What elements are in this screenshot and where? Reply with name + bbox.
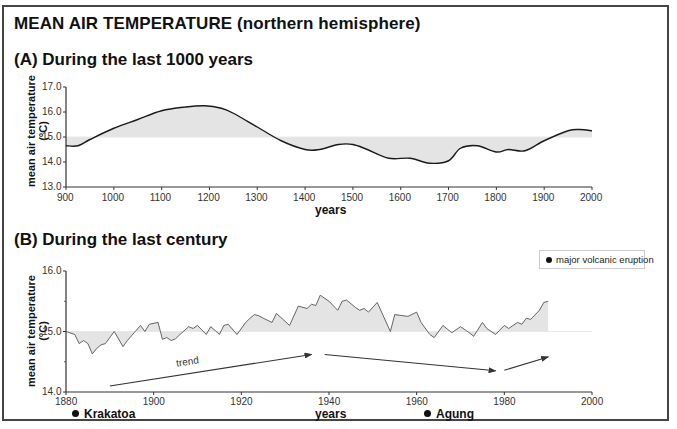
trend-arrow xyxy=(110,354,312,385)
panel-a-plot xyxy=(63,87,592,190)
charts-canvas xyxy=(0,0,677,429)
trend-arrow xyxy=(504,357,548,370)
deviation-fill xyxy=(66,295,548,354)
panel-b-plot xyxy=(63,271,592,395)
trend-arrow xyxy=(325,354,496,370)
deviation-fill xyxy=(66,106,592,164)
